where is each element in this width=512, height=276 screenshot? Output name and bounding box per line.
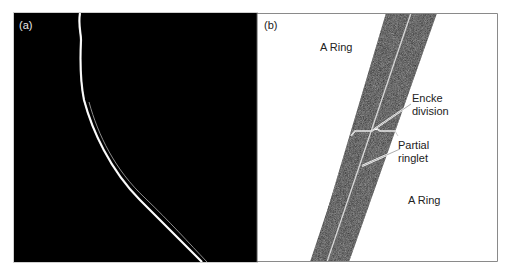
panel-a-label: (a) <box>19 19 32 31</box>
panel-a-background <box>14 13 257 262</box>
encke-division-label-line1: Encke <box>412 92 443 105</box>
partial-ringlet-label-line1: Partial <box>398 139 429 152</box>
figure-graphics <box>0 0 512 276</box>
panel-b-label: (b) <box>264 19 277 31</box>
figure: (a) (b) A Ring Encke division Partial ri… <box>0 0 512 276</box>
a-ring-label-bottom: A Ring <box>408 194 440 207</box>
panel-b-image <box>257 13 498 262</box>
partial-ringlet-label-line2: ringlet <box>398 152 428 165</box>
a-ring-label-top: A Ring <box>320 41 352 54</box>
encke-division-label-line2: division <box>412 105 449 118</box>
